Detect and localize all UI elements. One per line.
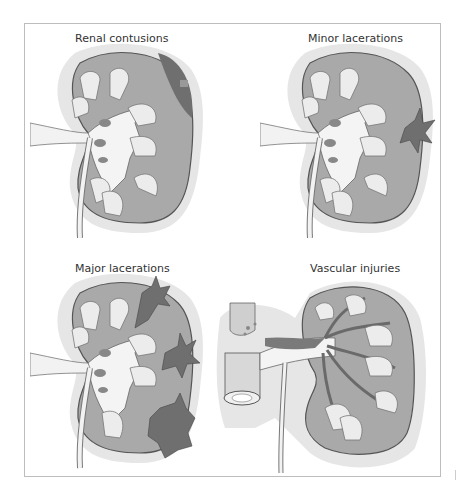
kidney-major-laceration-illustration <box>30 258 230 473</box>
panel-vascular-injuries: Vascular injuries <box>215 258 440 473</box>
kidney-vascular-injury-illustration <box>215 258 440 473</box>
edge-mark <box>455 470 458 480</box>
panel-major-lacerations: Major lacerations <box>30 258 230 473</box>
kidney-contusion-illustration <box>30 28 230 238</box>
panel-renal-contusions: Renal contusions <box>30 28 230 238</box>
panel-minor-lacerations: Minor lacerations <box>260 28 440 238</box>
kidney-minor-laceration-illustration <box>260 28 440 238</box>
